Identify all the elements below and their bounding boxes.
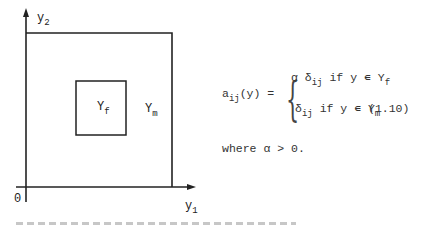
where-clause: where α > 0. — [222, 143, 305, 155]
y1-axis-arrow-icon — [187, 184, 196, 190]
y1-axis-label: y1 — [185, 200, 198, 212]
equation-number: (1.10) — [368, 103, 409, 115]
region-yf-label: Yf — [97, 101, 110, 113]
equation-lhs: aij(y) = — [222, 88, 274, 100]
region-ym-label: Ym — [145, 103, 158, 115]
origin-label: 0 — [14, 193, 21, 205]
equation-case-1: α δij if y ∊ Yf — [291, 72, 390, 84]
y2-axis-arrow-icon — [23, 8, 29, 17]
clipped-text-line — [16, 219, 296, 227]
y2-axis-label: y2 — [37, 12, 50, 24]
